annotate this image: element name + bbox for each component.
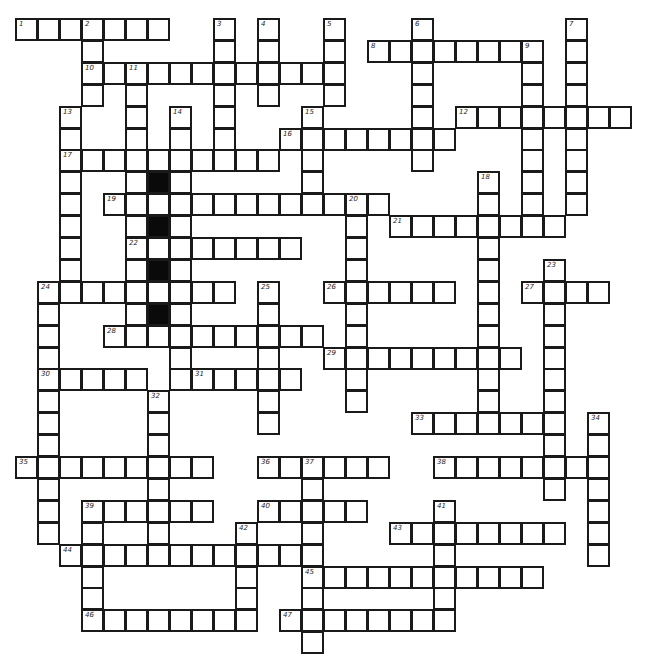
grid-cell[interactable]	[323, 566, 346, 589]
grid-cell[interactable]	[455, 40, 478, 63]
grid-cell[interactable]	[345, 609, 368, 632]
grid-cell[interactable]	[389, 566, 412, 589]
grid-cell[interactable]	[81, 368, 104, 391]
grid-cell[interactable]	[411, 149, 434, 172]
grid-cell[interactable]	[411, 566, 434, 589]
grid-cell[interactable]	[125, 18, 148, 41]
grid-cell[interactable]	[191, 62, 214, 85]
grid-cell[interactable]	[587, 500, 610, 523]
grid-cell[interactable]: 10	[81, 62, 104, 85]
grid-cell[interactable]	[103, 18, 126, 41]
grid-cell[interactable]	[103, 456, 126, 479]
grid-cell[interactable]	[169, 193, 192, 216]
grid-cell[interactable]	[543, 347, 566, 370]
grid-cell[interactable]	[367, 347, 390, 370]
grid-cell[interactable]: 4	[257, 18, 280, 41]
grid-cell[interactable]	[411, 522, 434, 545]
grid-cell[interactable]	[477, 237, 500, 260]
grid-cell[interactable]	[169, 128, 192, 151]
grid-cell[interactable]	[521, 149, 544, 172]
grid-cell[interactable]	[433, 412, 456, 435]
grid-cell[interactable]	[235, 62, 258, 85]
grid-cell[interactable]	[521, 522, 544, 545]
grid-cell[interactable]	[125, 281, 148, 304]
grid-cell[interactable]	[213, 237, 236, 260]
grid-cell[interactable]	[345, 281, 368, 304]
grid-cell[interactable]	[257, 62, 280, 85]
grid-cell[interactable]: 1	[15, 18, 38, 41]
grid-cell[interactable]: 2	[81, 18, 104, 41]
grid-cell[interactable]	[147, 412, 170, 435]
grid-cell[interactable]	[455, 215, 478, 238]
grid-cell[interactable]: 9	[521, 40, 544, 63]
grid-cell[interactable]	[257, 193, 280, 216]
grid-cell[interactable]	[345, 325, 368, 348]
grid-cell[interactable]	[257, 544, 280, 567]
grid-cell[interactable]	[37, 390, 60, 413]
grid-cell[interactable]	[433, 544, 456, 567]
grid-cell[interactable]	[477, 303, 500, 326]
grid-cell[interactable]	[543, 390, 566, 413]
grid-cell[interactable]	[213, 84, 236, 107]
grid-cell[interactable]	[345, 215, 368, 238]
grid-cell[interactable]	[455, 412, 478, 435]
grid-cell[interactable]	[477, 347, 500, 370]
grid-cell[interactable]	[477, 368, 500, 391]
grid-cell[interactable]	[367, 128, 390, 151]
grid-cell[interactable]	[543, 281, 566, 304]
grid-cell[interactable]	[323, 40, 346, 63]
grid-cell[interactable]	[389, 128, 412, 151]
grid-cell[interactable]	[389, 347, 412, 370]
grid-cell[interactable]	[37, 325, 60, 348]
grid-cell[interactable]	[367, 193, 390, 216]
grid-cell[interactable]	[587, 478, 610, 501]
grid-cell[interactable]	[235, 237, 258, 260]
grid-cell[interactable]	[59, 237, 82, 260]
grid-cell[interactable]	[389, 40, 412, 63]
grid-cell[interactable]	[81, 587, 104, 610]
grid-cell[interactable]	[521, 171, 544, 194]
grid-cell[interactable]: 30	[37, 368, 60, 391]
grid-cell[interactable]	[565, 84, 588, 107]
grid-cell[interactable]	[345, 368, 368, 391]
grid-cell[interactable]	[521, 128, 544, 151]
grid-cell[interactable]: 12	[455, 106, 478, 129]
grid-cell[interactable]	[455, 566, 478, 589]
grid-cell[interactable]	[213, 281, 236, 304]
grid-cell[interactable]	[147, 193, 170, 216]
grid-cell[interactable]	[37, 522, 60, 545]
grid-cell[interactable]	[521, 412, 544, 435]
grid-cell[interactable]	[499, 522, 522, 545]
grid-cell[interactable]	[169, 171, 192, 194]
grid-cell[interactable]: 32	[147, 390, 170, 413]
grid-cell[interactable]	[411, 609, 434, 632]
grid-cell[interactable]	[345, 566, 368, 589]
grid-cell[interactable]	[103, 609, 126, 632]
grid-cell[interactable]	[367, 456, 390, 479]
grid-cell[interactable]	[81, 456, 104, 479]
grid-cell[interactable]	[103, 544, 126, 567]
grid-cell[interactable]	[147, 434, 170, 457]
grid-cell[interactable]	[125, 609, 148, 632]
grid-cell[interactable]	[301, 128, 324, 151]
grid-cell[interactable]: 28	[103, 325, 126, 348]
grid-cell[interactable]: 40	[257, 500, 280, 523]
grid-cell[interactable]	[125, 325, 148, 348]
grid-cell[interactable]	[301, 631, 324, 654]
grid-cell[interactable]	[125, 368, 148, 391]
grid-cell[interactable]	[169, 325, 192, 348]
grid-cell[interactable]	[301, 62, 324, 85]
grid-cell[interactable]	[103, 368, 126, 391]
grid-cell[interactable]	[125, 259, 148, 282]
grid-cell[interactable]	[411, 106, 434, 129]
grid-cell[interactable]	[521, 84, 544, 107]
grid-cell[interactable]	[411, 281, 434, 304]
grid-cell[interactable]	[59, 368, 82, 391]
grid-cell[interactable]	[565, 128, 588, 151]
grid-cell[interactable]	[367, 281, 390, 304]
grid-cell[interactable]	[279, 237, 302, 260]
grid-cell[interactable]	[345, 303, 368, 326]
grid-cell[interactable]	[565, 171, 588, 194]
grid-cell[interactable]	[323, 500, 346, 523]
grid-cell[interactable]	[257, 237, 280, 260]
